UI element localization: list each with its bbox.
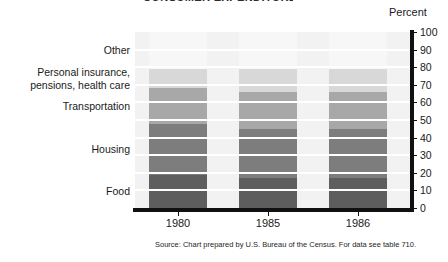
y-axis-label-80: 80 <box>420 62 432 72</box>
y-axis-label-10: 10 <box>420 185 432 195</box>
category-label-other: Other <box>0 44 130 57</box>
bar-segment-1980-food[interactable] <box>149 175 207 208</box>
x-axis-tick-1980 <box>178 212 179 216</box>
y-axis-tick-10 <box>410 190 417 191</box>
y-axis-tick-30 <box>410 155 417 156</box>
chart-title-cutoff: CONSUMER EXPENDITURES <box>143 0 293 4</box>
y-axis-label-30: 30 <box>420 150 432 160</box>
bar-1985[interactable] <box>239 32 297 208</box>
y-axis-tick-80 <box>410 67 417 68</box>
category-label-housing: Housing <box>0 143 130 156</box>
chart-plot-area <box>135 32 410 208</box>
x-axis-label-1985: 1985 <box>256 217 280 229</box>
source-note: Source: Chart prepared by U.S. Bureau of… <box>155 240 416 249</box>
x-axis-label-1980: 1980 <box>166 217 190 229</box>
bar-segment-1986-personal-insurance[interactable] <box>329 69 387 92</box>
y-axis-label-90: 90 <box>420 45 432 55</box>
x-axis-baseline <box>133 208 414 212</box>
x-axis-tick-1985 <box>268 212 269 216</box>
x-axis-label-1986: 1986 <box>346 217 370 229</box>
y-axis-tick-50 <box>410 120 417 121</box>
category-label-food: Food <box>0 185 130 198</box>
y-axis-label-20: 20 <box>420 168 432 178</box>
bar-segment-1986-food[interactable] <box>329 178 387 208</box>
percent-axis-caption: Percent <box>389 6 427 18</box>
y-axis-tick-60 <box>410 102 417 103</box>
y-axis-label-60: 60 <box>420 97 432 107</box>
bar-segment-1980-other[interactable] <box>149 32 207 69</box>
category-label-personal-insurance: Personal insurance, pensions, health car… <box>0 66 130 91</box>
bar-segment-1985-transportation[interactable] <box>239 92 297 129</box>
y-axis-tick-70 <box>410 85 417 86</box>
y-axis-label-100: 100 <box>420 27 438 37</box>
bar-segment-1985-personal-insurance[interactable] <box>239 69 297 92</box>
y-axis-label-0: 0 <box>420 203 426 213</box>
bar-segment-1985-housing[interactable] <box>239 129 297 178</box>
y-axis-tick-40 <box>410 138 417 139</box>
bar-segment-1980-transportation[interactable] <box>149 88 207 123</box>
bar-1980[interactable] <box>149 32 207 208</box>
bar-segment-1985-food[interactable] <box>239 178 297 208</box>
y-axis-label-40: 40 <box>420 133 432 143</box>
y-axis-tick-100 <box>410 32 417 33</box>
y-axis: 1009080706050403020100 <box>410 32 448 208</box>
bar-segment-1980-personal-insurance[interactable] <box>149 69 207 88</box>
bar-segment-1980-housing[interactable] <box>149 124 207 175</box>
chart-title-text: CONSUMER EXPENDITURES <box>143 0 293 3</box>
bar-segment-1985-other[interactable] <box>239 32 297 69</box>
bar-segment-1986-housing[interactable] <box>329 129 387 178</box>
bar-segment-1986-other[interactable] <box>329 32 387 69</box>
category-label-transportation: Transportation <box>0 100 130 113</box>
y-axis-tick-20 <box>410 173 417 174</box>
x-axis-tick-1986 <box>358 212 359 216</box>
bar-1986[interactable] <box>329 32 387 208</box>
bar-segment-1986-transportation[interactable] <box>329 92 387 129</box>
y-axis-tick-90 <box>410 50 417 51</box>
y-axis-label-50: 50 <box>420 115 432 125</box>
y-axis-label-70: 70 <box>420 80 432 90</box>
